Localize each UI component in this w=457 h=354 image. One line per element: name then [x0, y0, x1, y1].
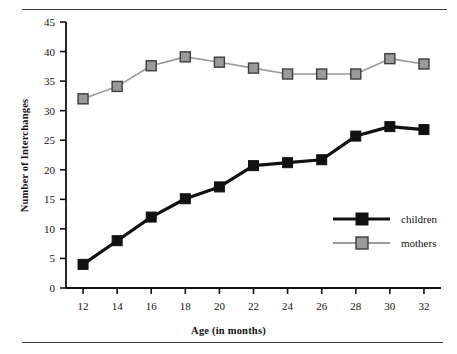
chart-svg: 0510152025303540451214161820222426283032…: [0, 0, 457, 354]
data-point-marker: [351, 69, 361, 79]
x-axis-tick-label: 30: [384, 300, 396, 312]
data-point-marker: [112, 236, 122, 246]
x-axis-tick-label: 26: [316, 300, 328, 312]
x-axis-tick-label: 32: [418, 300, 429, 312]
x-axis-tick-label: 12: [78, 300, 89, 312]
x-axis-tick-label: 28: [350, 300, 362, 312]
data-point-marker: [249, 161, 259, 171]
x-axis-tick-label: 14: [112, 300, 124, 312]
chart-legend: childrenmothers: [333, 213, 438, 249]
x-axis-tick-label: 18: [180, 300, 192, 312]
y-axis-title: Number of Interchanges: [19, 56, 30, 256]
data-point-marker: [214, 57, 224, 67]
data-point-marker: [78, 259, 88, 269]
data-point-marker: [385, 54, 395, 64]
y-axis-tick-label: 15: [44, 193, 56, 205]
y-axis-tick-label: 30: [44, 105, 56, 117]
legend-label-children: children: [401, 213, 438, 225]
data-point-marker: [180, 52, 190, 62]
series-mothers: [78, 52, 429, 104]
y-axis-tick-label: 40: [44, 46, 56, 58]
x-axis-tick-label: 24: [282, 300, 294, 312]
x-axis-tick-label: 22: [248, 300, 259, 312]
legend-label-mothers: mothers: [401, 237, 436, 249]
x-axis-tick-label: 20: [214, 300, 226, 312]
legend-swatch-marker-mothers: [356, 237, 368, 249]
y-axis-tick-label: 35: [44, 75, 56, 87]
data-point-marker: [249, 63, 259, 73]
y-axis-tick-label: 25: [44, 134, 56, 146]
y-axis-tick-label: 45: [44, 16, 56, 28]
data-point-marker: [419, 125, 429, 135]
figure-container: 0510152025303540451214161820222426283032…: [0, 0, 457, 354]
data-point-marker: [78, 94, 88, 104]
data-point-marker: [419, 59, 429, 69]
y-axis-tick-label: 0: [50, 282, 56, 294]
data-point-marker: [146, 212, 156, 222]
data-point-marker: [180, 194, 190, 204]
data-point-marker: [317, 69, 327, 79]
y-axis-tick-label: 20: [44, 164, 56, 176]
data-point-marker: [112, 81, 122, 91]
data-point-marker: [317, 155, 327, 165]
data-point-marker: [351, 131, 361, 141]
x-axis-tick-label: 16: [146, 300, 158, 312]
data-point-marker: [214, 182, 224, 192]
legend-swatch-marker-children: [356, 213, 368, 225]
line-chart: 0510152025303540451214161820222426283032…: [0, 0, 457, 354]
data-point-marker: [283, 69, 293, 79]
x-axis-title: Age (in months): [0, 325, 457, 336]
y-axis-tick-label: 5: [50, 252, 56, 264]
data-point-marker: [283, 158, 293, 168]
data-point-marker: [146, 61, 156, 71]
series-children: [78, 122, 429, 270]
y-axis-tick-label: 10: [44, 223, 56, 235]
data-point-marker: [385, 122, 395, 132]
